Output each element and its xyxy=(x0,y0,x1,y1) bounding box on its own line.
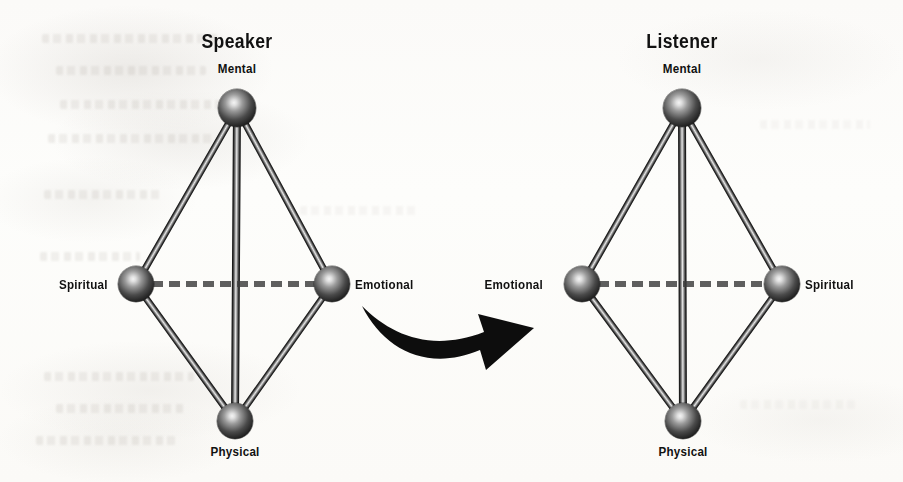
speaker-panel-title: Speaker xyxy=(149,30,325,53)
listener-panel-title: Listener xyxy=(594,30,770,53)
edge-emotional-physical xyxy=(579,282,686,423)
node-emotional-sphere xyxy=(564,266,600,302)
figure-canvas: Speaker Mental Spiritual Emotional Physi… xyxy=(0,0,903,482)
node-physical-sphere xyxy=(217,403,253,439)
node-mental-sphere xyxy=(663,89,701,127)
node-label-emotional: Emotional xyxy=(485,277,543,292)
edge-mental-spiritual xyxy=(679,106,785,285)
edge-mental-emotional xyxy=(234,106,335,285)
node-label-physical: Physical xyxy=(658,444,707,459)
edge-mental-emotional xyxy=(579,106,685,285)
node-label-spiritual: Spiritual xyxy=(59,277,108,292)
edge-spiritual-physical xyxy=(680,282,785,423)
edge-mental-physical xyxy=(678,108,687,421)
edge-emotional-spiritual-dashed xyxy=(598,281,766,287)
node-label-spiritual: Spiritual xyxy=(805,277,854,292)
listener-diagram: Listener Mental Emotional Spiritual Phys… xyxy=(460,0,903,482)
edge-emotional-physical xyxy=(232,282,335,423)
node-label-physical: Physical xyxy=(210,444,259,459)
edge-mental-spiritual xyxy=(133,106,240,286)
node-mental-sphere xyxy=(218,89,256,127)
node-label-mental: Mental xyxy=(218,61,256,76)
node-label-mental: Mental xyxy=(663,61,701,76)
speaker-diagram: Speaker Mental Spiritual Emotional Physi… xyxy=(0,0,460,482)
node-emotional-sphere xyxy=(314,266,350,302)
edge-mental-physical xyxy=(231,108,241,421)
node-spiritual-sphere xyxy=(764,266,800,302)
node-spiritual-sphere xyxy=(118,266,154,302)
edge-spiritual-emotional-dashed xyxy=(152,281,316,287)
node-physical-sphere xyxy=(665,403,701,439)
node-label-emotional: Emotional xyxy=(355,277,413,292)
edge-spiritual-physical xyxy=(133,282,238,423)
